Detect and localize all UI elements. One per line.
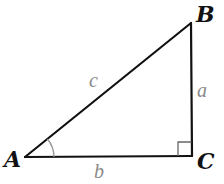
side-label-c: c: [89, 69, 98, 91]
angle-arc-a-icon: [48, 139, 55, 157]
side-a-vertical: [191, 23, 192, 156]
side-b-base: [25, 156, 192, 157]
side-label-b: b: [94, 160, 104, 182]
side-c-hypotenuse: [25, 23, 191, 157]
side-label-a: a: [197, 79, 207, 101]
vertex-label-a: A: [2, 146, 21, 172]
right-triangle-diagram: A B C c a b: [0, 0, 224, 184]
vertex-label-b: B: [195, 1, 215, 27]
right-angle-mark-icon: [178, 142, 192, 156]
vertex-label-c: C: [197, 148, 215, 174]
